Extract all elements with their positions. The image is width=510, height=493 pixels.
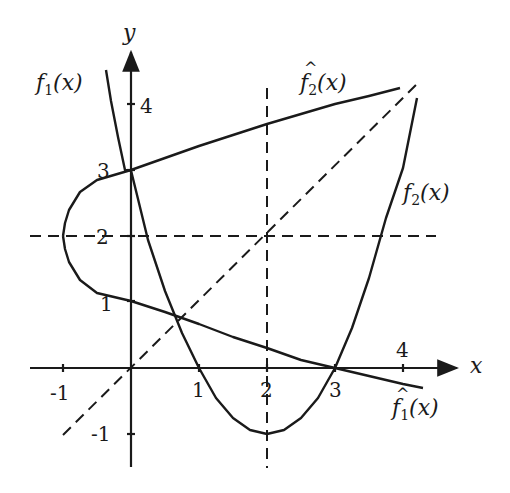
y-axis-label: y — [122, 20, 136, 45]
svg-text:f1(x): f1(x) — [34, 70, 83, 98]
label-f2: f2(x) — [401, 180, 450, 208]
y-tick-label-2: 2 — [96, 225, 109, 249]
label-f2hat: f2(x) ^ — [298, 59, 347, 98]
x-axis-label: x — [470, 353, 483, 378]
label-f1hat: f1(x) ^ — [390, 385, 439, 423]
y-tick-label-1: 1 — [100, 292, 113, 316]
dashed-line-y-equals-x — [63, 83, 418, 435]
x-tick-label-3: 3 — [329, 378, 342, 402]
y-tick-label-minus1: -1 — [91, 422, 110, 446]
svg-text:f2(x): f2(x) — [401, 180, 450, 208]
label-f1: f1(x) — [34, 70, 83, 98]
y-tick-label-4: 4 — [140, 94, 153, 118]
curve-f2 — [267, 98, 417, 434]
x-tick-label-2: 2 — [260, 378, 273, 402]
svg-text:^: ^ — [304, 59, 317, 78]
x-tick-label-minus1: -1 — [50, 381, 69, 405]
x-tick-label-4: 4 — [396, 338, 409, 362]
y-tick-label-3: 3 — [97, 159, 110, 183]
svg-text:^: ^ — [396, 385, 409, 404]
curve-f1hat — [63, 236, 423, 388]
function-inverse-diagram: -1 1 2 3 4 -1 1 2 3 4 x y f1(x) f2(x) f2… — [0, 0, 510, 493]
x-tick-label-1: 1 — [192, 378, 205, 402]
